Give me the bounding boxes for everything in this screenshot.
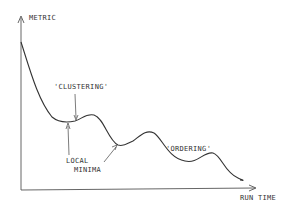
x-axis — [21, 188, 255, 190]
local-minima-pointer-1 — [68, 126, 69, 155]
local-minima-label-line2: MINIMA — [74, 166, 102, 174]
local-minima-label-line1: LOCAL — [66, 157, 89, 165]
metric-curve — [21, 42, 243, 180]
clustering-label: 'CLUSTERING' — [54, 83, 108, 91]
y-axis-label: METRIC — [29, 14, 56, 22]
local-minima-pointer-2 — [104, 147, 116, 162]
x-axis-label: RUN TIME — [240, 194, 276, 202]
metric-vs-runtime-diagram: METRIC RUN TIME 'CLUSTERING' 'ORDERING' … — [0, 0, 304, 210]
clustering-pointer — [75, 94, 76, 118]
ordering-label: 'ORDERING' — [166, 145, 211, 153]
